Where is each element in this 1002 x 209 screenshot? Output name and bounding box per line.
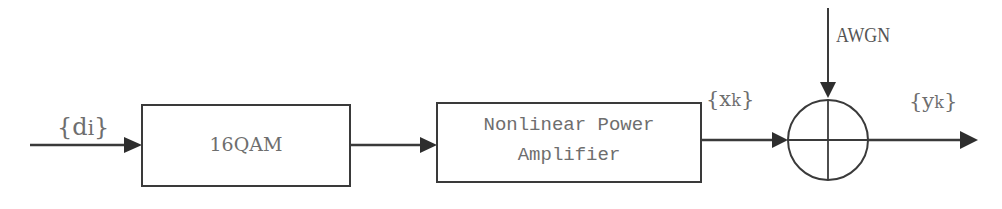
block-diagram: 16QAM Nonlinear Power Amplifier {di} {xk… — [0, 0, 1002, 209]
amplifier-output-label: {xk} — [706, 87, 754, 111]
amplifier-to-summer-arrow — [701, 132, 788, 148]
awgn-label: AWGN — [836, 23, 890, 48]
modulator-to-amplifier-arrow — [350, 137, 437, 153]
modulator-label: 16QAM — [141, 129, 351, 160]
awgn-arrow — [820, 8, 836, 98]
power-amplifier-label-line1: Nonlinear Power — [436, 110, 702, 141]
adder-symbol — [788, 100, 868, 180]
output-arrow — [868, 131, 978, 149]
input-signal-label: {di} — [57, 113, 109, 141]
power-amplifier-label-line2: Amplifier — [436, 140, 702, 171]
output-signal-label: {yk} — [909, 89, 957, 113]
